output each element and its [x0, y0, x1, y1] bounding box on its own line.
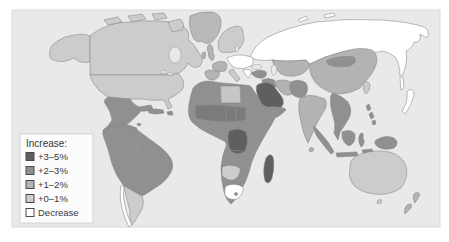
region-lesotho — [234, 192, 237, 195]
legend-title: Increase: — [26, 138, 67, 149]
caspian-sea — [271, 65, 277, 75]
region-dr-congo — [228, 129, 247, 153]
legend-swatch-decrease — [26, 209, 34, 217]
figure-world-population-change-map: Increase: +3–5% +2–3% +1–2% +0–1% Decrea… — [0, 0, 449, 242]
region-australia — [349, 151, 406, 195]
legend-label-plus1-2: +1–2% — [38, 179, 68, 190]
great-lakes — [168, 73, 173, 76]
legend-swatch-plus3-5 — [26, 153, 34, 161]
legend-label-plus2-3: +2–3% — [38, 165, 68, 176]
black-sea — [252, 65, 262, 70]
legend-label-plus0-1: +0–1% — [38, 193, 68, 204]
region-france — [212, 61, 227, 71]
region-libya — [220, 86, 241, 103]
baltic-sea — [235, 45, 238, 52]
region-hispaniola — [167, 111, 173, 115]
region-sri-lanka — [309, 147, 314, 151]
hudson-bay — [169, 47, 181, 63]
legend-swatch-plus2-3 — [26, 167, 34, 175]
region-sahel — [195, 105, 246, 122]
legend-label-plus3-5: +3–5% — [38, 151, 68, 162]
legend-label-decrease: Decrease — [38, 207, 79, 218]
legend-swatch-plus0-1 — [26, 195, 34, 203]
region-tasmania — [377, 199, 382, 203]
great-lakes — [160, 71, 166, 74]
region-canada — [90, 21, 202, 75]
legend-swatch-plus1-2 — [26, 181, 34, 189]
region-sakhalin — [400, 76, 404, 90]
world-choropleth-map: Increase: +3–5% +2–3% +1–2% +0–1% Decrea… — [0, 0, 449, 242]
legend: Increase: +3–5% +2–3% +1–2% +0–1% Decrea… — [20, 134, 93, 223]
region-ireland — [202, 52, 206, 59]
region-cuba — [148, 109, 164, 114]
